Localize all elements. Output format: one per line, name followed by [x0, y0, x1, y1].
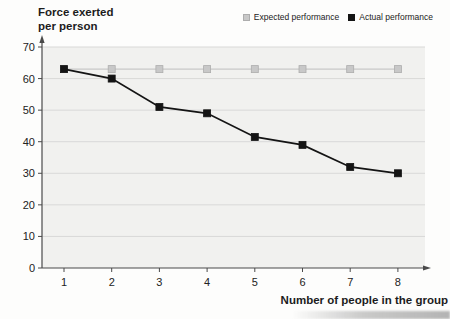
svg-text:3: 3 [156, 276, 162, 288]
svg-text:4: 4 [204, 276, 210, 288]
svg-text:7: 7 [347, 276, 353, 288]
svg-text:30: 30 [23, 167, 35, 179]
chart-plot-area: 01020304050607012345678 [0, 0, 450, 319]
svg-text:60: 60 [23, 73, 35, 85]
svg-text:40: 40 [23, 136, 35, 148]
force-per-person-chart: Force exerted per person Expected perfor… [0, 0, 450, 319]
scan-artifact [292, 311, 450, 319]
svg-text:1: 1 [61, 276, 67, 288]
svg-text:50: 50 [23, 104, 35, 116]
svg-text:2: 2 [109, 276, 115, 288]
svg-text:10: 10 [23, 230, 35, 242]
svg-text:20: 20 [23, 199, 35, 211]
x-axis-title: Number of people in the group [281, 294, 448, 306]
svg-text:5: 5 [252, 276, 258, 288]
svg-text:8: 8 [395, 276, 401, 288]
svg-text:70: 70 [23, 41, 35, 53]
svg-text:6: 6 [299, 276, 305, 288]
svg-text:0: 0 [29, 262, 35, 274]
